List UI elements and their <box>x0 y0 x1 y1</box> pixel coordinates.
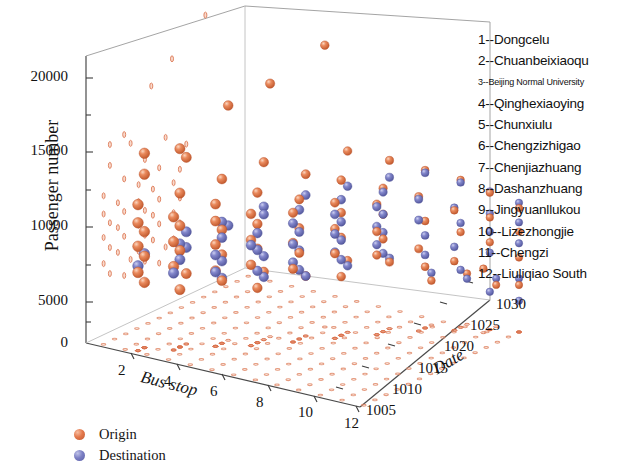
floor-projection-mark <box>288 317 293 319</box>
station-legend-item: 8--Dashanzhuang <box>478 178 634 199</box>
data-point-origin <box>217 276 227 286</box>
data-point-origin <box>373 227 381 235</box>
data-point-origin <box>139 169 150 180</box>
floor-projection-mark <box>343 306 348 308</box>
floor-projection-mark <box>429 342 434 344</box>
data-point-origin <box>288 208 297 217</box>
data-point-destination <box>246 240 256 250</box>
wall-projection-mark <box>116 200 119 206</box>
floor-projection-mark <box>339 334 344 336</box>
floor-projection-mark <box>124 333 129 335</box>
data-point-origin <box>139 148 150 159</box>
data-point-origin <box>253 219 263 229</box>
floor-projection-mark <box>363 358 368 360</box>
data-point-destination <box>295 227 304 236</box>
data-point-destination <box>486 288 494 296</box>
floor-projection-mark <box>167 328 172 330</box>
data-point-origin <box>211 240 221 250</box>
wall-projection-mark <box>129 256 132 262</box>
floor-projection-mark <box>277 337 282 339</box>
floor-projection-mark <box>354 301 359 303</box>
data-point-origin <box>133 241 144 252</box>
data-point-origin <box>168 212 178 222</box>
floor-projection-mark <box>226 339 231 341</box>
floor-projection-mark <box>397 326 402 328</box>
floor-projection-mark <box>423 327 428 329</box>
floor-projection-mark <box>363 373 368 375</box>
data-point-origin <box>301 170 310 179</box>
floor-projection-mark <box>319 379 324 381</box>
wall-projection-mark <box>143 207 146 213</box>
floor-projection-mark <box>221 348 226 350</box>
floor-projection-mark <box>288 332 293 334</box>
floor-projection-mark <box>177 353 182 355</box>
floor-projection-mark <box>362 389 367 391</box>
floor-projection-mark <box>374 334 379 336</box>
station-legend-item: 3--Beijing Normal University <box>478 72 634 93</box>
wall-projection-mark <box>171 56 174 62</box>
floor-projection-mark <box>464 323 469 325</box>
floor-projection-mark <box>166 359 171 361</box>
floor-projection-mark <box>134 343 139 345</box>
floor-projection-mark <box>245 291 250 293</box>
data-point-origin <box>139 226 150 237</box>
wall-projection-mark <box>102 211 105 217</box>
wall-projection-mark <box>151 212 154 218</box>
data-point-destination <box>385 173 393 181</box>
floor-projection-mark <box>210 369 215 371</box>
floor-projection-mark <box>231 374 236 376</box>
data-point-destination <box>379 210 387 218</box>
wall-projection-mark <box>151 186 154 192</box>
data-point-origin <box>133 217 144 228</box>
xtick-12: 12 <box>344 415 359 432</box>
floor-projection-mark <box>408 321 413 323</box>
floor-projection-mark <box>233 327 238 329</box>
floor-projection-mark <box>213 291 218 293</box>
floor-projection-mark <box>516 331 521 333</box>
floor-projection-mark <box>386 332 391 334</box>
floor-projection-mark <box>329 389 334 391</box>
floor-projection-mark <box>243 369 248 371</box>
floor-projection-mark <box>275 369 280 371</box>
floor-projection-mark <box>351 394 356 396</box>
floor-projection-mark <box>321 316 326 318</box>
data-point-origin <box>181 269 191 279</box>
floor-projection-mark <box>386 347 391 349</box>
floor-projection-mark <box>255 342 260 344</box>
floor-projection-mark <box>452 331 457 333</box>
floor-projection-mark <box>330 373 335 375</box>
data-point-destination <box>373 240 381 248</box>
wall-projection-mark <box>137 182 140 188</box>
floor-projection-mark <box>299 327 304 329</box>
floor-projection-mark <box>256 301 261 303</box>
data-point-destination <box>337 217 346 226</box>
data-point-destination <box>288 240 297 249</box>
data-point-origin <box>450 206 458 214</box>
wall-projection-mark <box>123 132 126 138</box>
floor-projection-mark <box>408 337 413 339</box>
wall-projection-marks <box>102 12 207 278</box>
floor-projection-mark <box>353 332 358 334</box>
station-legend-item: 7--Chenjiazhuang <box>478 157 634 178</box>
floor-projection-mark <box>232 358 237 360</box>
floor-projection-mark <box>381 331 386 333</box>
origin-marker-icon <box>74 429 85 440</box>
floor-projection-mark <box>275 384 280 386</box>
floor-projection-mark <box>308 384 313 386</box>
station-legend: 1--Dongcelu2--Chuanbeixiaoqu3--Beijing N… <box>478 29 634 285</box>
data-point-origin <box>288 264 297 273</box>
wall-projection-mark <box>158 221 161 227</box>
floor-projection-mark <box>278 291 283 293</box>
legend-label-destination: Destination <box>99 447 166 464</box>
data-point-origin <box>139 277 150 288</box>
wall-projection-mark <box>108 271 111 277</box>
floor-projection-mark <box>345 331 350 333</box>
floor-projection-mark <box>398 311 403 313</box>
wall-projection-mark <box>123 209 126 215</box>
data-point-destination <box>421 169 429 177</box>
floor-projection-mark <box>156 348 161 350</box>
wall-projection-mark <box>158 196 161 202</box>
xtick-6: 6 <box>210 383 218 400</box>
floor-projection-mark <box>364 342 369 344</box>
wall-projection-mark <box>204 12 207 18</box>
